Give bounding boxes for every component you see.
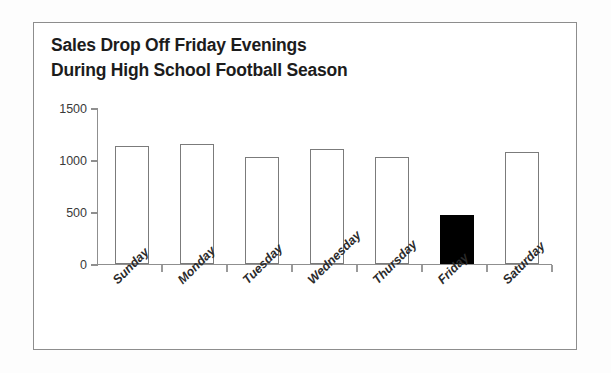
y-axis-tick-label: 500 bbox=[66, 206, 87, 220]
plot-area: 050010001500 SundayMondayTuesdayWednesda… bbox=[97, 109, 552, 265]
y-axis-tick-label: 0 bbox=[80, 258, 87, 272]
x-axis-tick bbox=[551, 265, 552, 272]
chart-title: Sales Drop Off Friday Evenings During Hi… bbox=[51, 33, 551, 83]
y-axis-tick bbox=[91, 212, 98, 213]
y-axis-line bbox=[97, 109, 98, 265]
x-axis-tick bbox=[356, 265, 357, 272]
x-axis-tick bbox=[161, 265, 162, 272]
y-axis-tick bbox=[91, 108, 98, 109]
y-axis-tick-label: 1000 bbox=[59, 154, 87, 168]
y-axis-tick bbox=[91, 160, 98, 161]
x-axis-tick bbox=[486, 265, 487, 272]
y-axis-tick bbox=[91, 264, 98, 265]
y-axis-tick-label: 1500 bbox=[59, 102, 87, 116]
chart-frame: Sales Drop Off Friday Evenings During Hi… bbox=[33, 22, 577, 350]
x-axis-tick bbox=[226, 265, 227, 272]
x-axis-tick bbox=[291, 265, 292, 272]
x-axis-tick bbox=[421, 265, 422, 272]
chart-screenshot: Sales Drop Off Friday Evenings During Hi… bbox=[0, 0, 611, 373]
